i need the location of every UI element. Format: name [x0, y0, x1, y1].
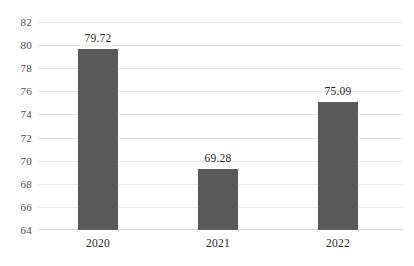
- y-axis-tick-label: 76: [8, 86, 32, 97]
- x-axis-tick-label-2020: 2020: [68, 238, 128, 250]
- gridline: [38, 22, 403, 23]
- y-axis-tick-label: 68: [8, 179, 32, 190]
- bar-value-2021: 69.28: [205, 153, 232, 165]
- y-axis-tick-label: 70: [8, 156, 32, 167]
- y-axis-tick-label: 66: [8, 202, 32, 213]
- x-axis-tick-label-2021: 2021: [188, 238, 248, 250]
- y-axis-tick-label: 80: [8, 40, 32, 51]
- bar-2022[interactable]: [318, 102, 358, 230]
- x-axis-tick-label-2022: 2022: [308, 238, 368, 250]
- y-axis-tick-label: 74: [8, 109, 32, 120]
- y-axis-tick-label: 72: [8, 133, 32, 144]
- y-axis-tick-label: 78: [8, 63, 32, 74]
- gridline: [38, 45, 403, 46]
- plot-area: 79.72 69.28 75.09: [38, 22, 403, 230]
- bar-value-2020: 79.72: [85, 33, 112, 45]
- bar-2021[interactable]: [198, 169, 238, 230]
- bar-chart: 79.72 69.28 75.09 82 80 78 76 74 72 70 6…: [0, 0, 414, 266]
- y-axis-tick-label: 64: [8, 225, 32, 236]
- bar-2020[interactable]: [78, 49, 118, 230]
- bar-value-2022: 75.09: [325, 86, 352, 98]
- y-axis-tick-label: 82: [8, 17, 32, 28]
